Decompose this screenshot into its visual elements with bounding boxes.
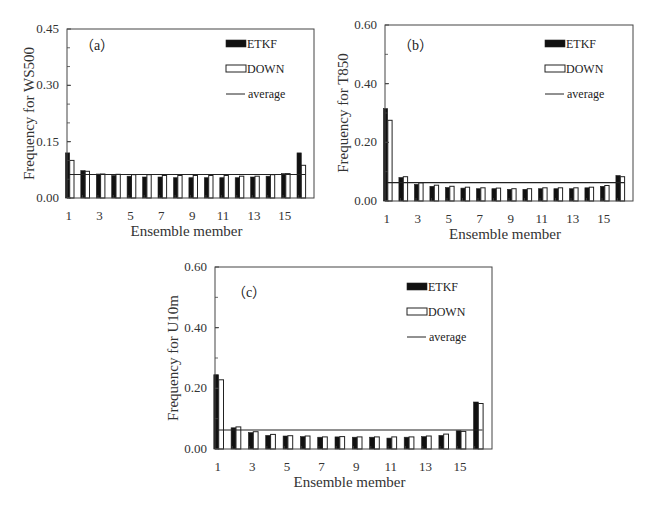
bar-down-member-8 [496, 188, 500, 201]
bar-etkf-member-11 [220, 178, 224, 198]
bar-down-member-8 [340, 437, 345, 449]
bar-etkf-member-12 [554, 189, 558, 201]
x-axis-title: Ensemble member [449, 226, 561, 242]
legend-label-etkf: ETKF [247, 37, 277, 51]
y-axis-title: Frequency for WS500 [21, 47, 37, 180]
x-tick-label: 1 [214, 459, 221, 474]
x-tick-label: 11 [385, 459, 398, 474]
legend-swatch-etkf [226, 40, 246, 47]
legend-label-average: average [429, 330, 466, 344]
y-tick-label: 0.15 [36, 134, 59, 149]
legend-swatch-etkf [407, 283, 427, 290]
bar-down-member-7 [481, 188, 485, 201]
panel-label: （b） [398, 38, 433, 53]
legend-label-down: DOWN [428, 305, 466, 319]
chart-panel-c: 0.000.200.400.6013579111315Ensemble memb… [165, 259, 492, 490]
bar-etkf-member-13 [422, 437, 427, 449]
bar-etkf-member-4 [430, 186, 434, 201]
bar-etkf-member-2 [399, 178, 403, 202]
y-tick-label: 0.40 [184, 320, 207, 335]
bar-down-member-9 [357, 437, 362, 449]
bar-etkf-member-2 [231, 428, 236, 449]
y-tick-label: 0.40 [354, 76, 377, 91]
x-tick-label: 13 [248, 208, 261, 223]
bar-down-member-12 [558, 188, 562, 201]
bar-down-member-12 [409, 437, 414, 449]
bar-etkf-member-4 [112, 176, 116, 199]
bar-etkf-member-4 [266, 435, 271, 449]
bar-etkf-member-5 [283, 436, 288, 449]
x-tick-label: 7 [158, 208, 165, 223]
bar-etkf-member-8 [335, 437, 340, 449]
bar-down-member-4 [116, 174, 120, 198]
bar-down-member-15 [605, 186, 609, 202]
y-tick-label: 0.00 [184, 441, 207, 456]
bar-etkf-member-6 [300, 437, 305, 449]
bar-etkf-member-9 [507, 189, 511, 201]
bar-down-member-9 [193, 176, 197, 199]
bar-etkf-member-15 [282, 174, 286, 198]
x-axis-title: Ensemble member [293, 474, 405, 490]
panel-label: （c） [232, 285, 266, 300]
y-tick-label: 0.30 [36, 77, 59, 92]
figure: 0.000.150.300.4513579111315Ensemble memb… [0, 0, 649, 513]
bar-down-member-14 [589, 187, 593, 201]
x-tick-label: 1 [65, 208, 72, 223]
legend-swatch-etkf [545, 40, 565, 47]
bar-etkf-member-11 [387, 438, 392, 449]
x-tick-label: 5 [127, 208, 134, 223]
bar-down-member-10 [375, 437, 380, 449]
bar-etkf-member-13 [569, 189, 573, 201]
bar-down-member-3 [101, 174, 105, 198]
bar-etkf-member-10 [370, 437, 375, 449]
bar-down-member-11 [224, 176, 228, 199]
y-axis-title: Frequency for U10m [165, 295, 181, 421]
bar-down-member-12 [240, 176, 244, 198]
bar-etkf-member-15 [456, 431, 461, 449]
panel-label: （a） [80, 38, 114, 53]
bar-etkf-member-12 [235, 178, 239, 198]
x-tick-label: 13 [566, 211, 579, 226]
y-tick-label: 0.20 [354, 134, 377, 149]
bar-down-member-5 [132, 175, 136, 198]
x-tick-label: 7 [318, 459, 325, 474]
bar-down-member-4 [434, 185, 438, 201]
bar-down-member-6 [465, 187, 469, 201]
x-tick-label: 3 [249, 459, 256, 474]
x-tick-label: 3 [415, 211, 422, 226]
bar-down-member-3 [253, 432, 258, 449]
bar-etkf-member-12 [404, 437, 409, 449]
bar-down-member-1 [219, 380, 224, 449]
bar-etkf-member-1 [383, 109, 387, 201]
bar-down-member-7 [323, 437, 328, 449]
x-tick-label: 9 [353, 459, 360, 474]
chart-panel-b: 0.000.200.400.6013579111315Ensemble memb… [335, 17, 633, 242]
bar-etkf-member-1 [65, 153, 69, 198]
bar-etkf-member-15 [600, 186, 604, 201]
bar-down-member-9 [512, 189, 516, 201]
bar-down-member-5 [288, 436, 293, 449]
chart-panel-a: 0.000.150.300.4513579111315Ensemble memb… [21, 21, 314, 239]
bar-etkf-member-16 [616, 176, 620, 202]
x-tick-label: 1 [384, 211, 391, 226]
bar-etkf-member-3 [414, 184, 418, 201]
legend-label-average: average [248, 87, 285, 101]
bar-down-member-16 [620, 177, 624, 201]
bar-down-member-15 [461, 431, 466, 449]
bar-down-member-7 [162, 176, 166, 199]
bar-etkf-member-3 [248, 433, 253, 449]
bar-etkf-member-10 [204, 178, 208, 198]
bar-etkf-member-9 [352, 437, 357, 449]
bar-etkf-member-9 [189, 178, 193, 198]
bar-etkf-member-5 [445, 188, 449, 202]
y-tick-label: 0.60 [184, 259, 207, 274]
bar-etkf-member-6 [143, 177, 147, 198]
x-tick-label: 3 [96, 208, 103, 223]
bar-etkf-member-16 [297, 153, 301, 198]
bar-etkf-member-14 [266, 176, 270, 198]
x-tick-label: 15 [597, 211, 610, 226]
bar-etkf-member-13 [251, 177, 255, 198]
bar-etkf-member-8 [174, 178, 178, 198]
bar-down-member-11 [392, 437, 397, 449]
bar-down-member-8 [178, 176, 182, 199]
